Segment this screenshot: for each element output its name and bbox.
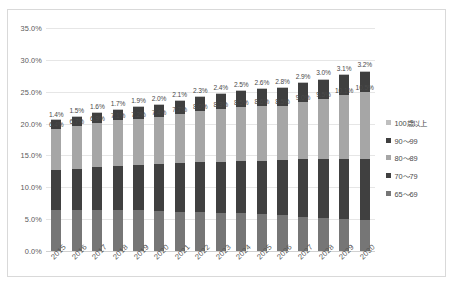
stacked-bar[interactable] xyxy=(175,100,185,251)
legend-label: 90～99 xyxy=(395,135,418,146)
stacked-bar[interactable] xyxy=(216,93,226,251)
stacked-bar[interactable] xyxy=(236,90,246,251)
legend-label: 80～89 xyxy=(395,152,418,163)
legend-swatch-icon xyxy=(386,138,391,143)
y-axis-tick-label: 35.0% xyxy=(21,24,42,33)
stacked-bar[interactable] xyxy=(277,87,287,251)
bar-segment[interactable] xyxy=(236,161,246,213)
data-label-90-99: 2.3% xyxy=(193,87,208,94)
data-label-90-99: 3.0% xyxy=(316,69,331,76)
bar-segment[interactable] xyxy=(216,109,226,162)
bar-segment[interactable] xyxy=(257,106,267,161)
bar-segment[interactable] xyxy=(92,123,102,167)
legend-label: 70～79 xyxy=(395,170,418,181)
bar-segment[interactable] xyxy=(113,166,123,210)
legend-item[interactable]: 100歳以上 xyxy=(386,114,446,132)
stacked-bar[interactable] xyxy=(298,82,308,251)
data-label-80-89: 9.5% xyxy=(316,91,331,98)
y-axis-tick-label: 30.0% xyxy=(21,55,42,64)
bar-segment[interactable] xyxy=(195,111,205,162)
legend-label: 65～69 xyxy=(395,188,418,199)
stacked-bar[interactable] xyxy=(133,106,143,251)
bar-segment[interactable] xyxy=(360,159,370,220)
gridline xyxy=(46,28,375,29)
bar-segment[interactable] xyxy=(277,160,287,215)
chart-legend: 100歳以上90～9980～8970～7965～69 xyxy=(386,114,446,202)
data-label-90-99: 3.1% xyxy=(337,65,352,72)
stacked-bar[interactable] xyxy=(113,109,123,251)
bar-segment[interactable] xyxy=(154,164,164,211)
bar-segment[interactable] xyxy=(133,165,143,210)
data-label-90-99: 1.6% xyxy=(90,103,105,110)
bar-segment[interactable] xyxy=(51,129,61,170)
bar-segment[interactable] xyxy=(72,126,82,169)
y-axis-tick-label: 0.0% xyxy=(25,247,42,256)
data-label-80-89: 8.0% xyxy=(193,103,208,110)
legend-swatch-icon xyxy=(386,173,391,178)
bar-segment[interactable] xyxy=(92,167,102,210)
plot-area: 0.0%5.0%10.0%15.0%20.0%25.0%30.0%35.0%1.… xyxy=(46,28,375,251)
y-axis-tick-label: 20.0% xyxy=(21,119,42,128)
bar-segment[interactable] xyxy=(51,170,61,210)
stacked-bar[interactable] xyxy=(360,71,370,251)
legend-swatch-icon xyxy=(386,191,391,196)
bar-segment[interactable] xyxy=(277,106,287,160)
stacked-bar[interactable] xyxy=(257,88,267,251)
data-label-80-89: 6.7% xyxy=(70,118,85,125)
bar-segment[interactable] xyxy=(195,162,205,212)
stacked-bar[interactable] xyxy=(318,79,328,251)
stacked-bar[interactable] xyxy=(195,96,205,251)
bar-segment[interactable] xyxy=(339,159,349,219)
stacked-bar[interactable] xyxy=(51,119,61,251)
bar-segment[interactable] xyxy=(318,159,328,218)
data-label-90-99: 2.5% xyxy=(234,81,249,88)
stacked-bar[interactable] xyxy=(154,104,164,252)
data-label-90-99: 2.8% xyxy=(275,78,290,85)
legend-item[interactable]: 70～79 xyxy=(386,167,446,185)
data-label-80-89: 8.5% xyxy=(275,98,290,105)
data-label-80-89: 8.6% xyxy=(255,98,270,105)
data-label-80-89: 8.5% xyxy=(234,99,249,106)
bar-segment[interactable] xyxy=(133,119,143,165)
bar-segment[interactable] xyxy=(360,92,370,159)
legend-item[interactable]: 80～89 xyxy=(386,149,446,167)
legend-item[interactable]: 90～99 xyxy=(386,132,446,150)
bar-segment[interactable] xyxy=(318,99,328,160)
legend-label: 100歳以上 xyxy=(395,117,428,128)
bar-segment[interactable] xyxy=(216,162,226,213)
data-label-90-99: 1.7% xyxy=(111,100,126,107)
y-axis-tick-label: 25.0% xyxy=(21,87,42,96)
data-label-90-99: 1.9% xyxy=(131,97,146,104)
bar-segment[interactable] xyxy=(257,161,267,215)
bar-segment[interactable] xyxy=(154,117,164,164)
chart-frame: 0.0%5.0%10.0%15.0%20.0%25.0%30.0%35.0%1.… xyxy=(7,9,446,277)
bar-segment[interactable] xyxy=(113,120,123,165)
data-label-90-99: 1.5% xyxy=(70,107,85,114)
legend-swatch-icon xyxy=(386,120,391,125)
y-axis-tick-label: 10.0% xyxy=(21,183,42,192)
bar-segment[interactable] xyxy=(236,107,246,161)
data-label-90-99: 2.6% xyxy=(255,79,270,86)
data-label-80-89: 8.3% xyxy=(213,101,228,108)
data-label-80-89: 6.9% xyxy=(90,115,105,122)
stacked-bar[interactable] xyxy=(92,112,102,251)
bar-segment[interactable] xyxy=(72,169,82,210)
y-axis-tick-label: 5.0% xyxy=(25,215,42,224)
stacked-bar[interactable] xyxy=(339,74,349,251)
bar-segment[interactable] xyxy=(175,163,185,211)
data-label-90-99: 3.2% xyxy=(357,61,372,68)
bar-segment[interactable] xyxy=(298,102,308,159)
legend-item[interactable]: 65～69 xyxy=(386,184,446,202)
data-label-90-99: 2.9% xyxy=(296,73,311,80)
data-label-80-89: 10.1% xyxy=(335,87,353,94)
bar-segment[interactable] xyxy=(298,159,308,216)
bar-segment[interactable] xyxy=(339,95,349,159)
bar-segment[interactable] xyxy=(175,114,185,163)
data-label-90-99: 2.0% xyxy=(152,95,167,102)
data-label-90-99: 2.1% xyxy=(172,91,187,98)
stacked-bar[interactable] xyxy=(72,116,82,251)
data-label-80-89: 7.4% xyxy=(152,109,167,116)
gridline xyxy=(46,60,375,61)
data-label-80-89: 10.5% xyxy=(356,84,374,91)
data-label-80-89: 6.4% xyxy=(49,121,64,128)
